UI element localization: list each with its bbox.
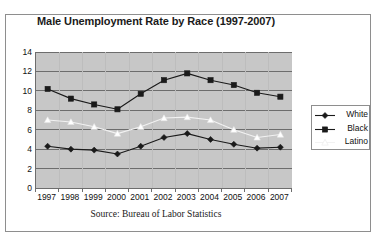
data-point-square	[231, 82, 236, 87]
data-point-square	[254, 90, 259, 95]
legend-item-black[interactable]: Black	[312, 122, 371, 135]
chart-title: Male Unemployment Rate by Race (1997-200…	[6, 15, 306, 27]
data-point-square	[115, 107, 120, 112]
data-point-diamond	[45, 143, 51, 149]
data-point-diamond	[68, 146, 74, 152]
y-axis-tick-label: 10	[6, 87, 32, 95]
y-axis-tick-label: 6	[6, 126, 32, 134]
data-point-diamond	[208, 136, 214, 142]
y-axis-labels: 02468101214	[3, 52, 32, 188]
data-point-square	[278, 94, 283, 99]
legend-marker-canvas	[314, 123, 336, 136]
chart-figure: Male Unemployment Rate by Race (1997-200…	[0, 0, 377, 237]
data-point-diamond	[114, 151, 120, 157]
data-point-square	[68, 96, 73, 101]
x-axis-tick-label: 2007	[263, 192, 295, 202]
legend-item-latino[interactable]: Latino	[312, 135, 371, 148]
legend-label: Black	[347, 123, 368, 134]
x-axis-tick-mark	[291, 188, 292, 192]
data-point-diamond	[138, 143, 144, 149]
data-point-diamond	[231, 141, 237, 147]
legend-marker-canvas	[314, 109, 336, 122]
y-axis-tick-label: 4	[6, 145, 32, 153]
y-axis-tick-label: 0	[6, 184, 32, 192]
x-axis-labels: 1997199819992000200120022003200420052006…	[35, 192, 291, 204]
data-point-diamond	[184, 131, 190, 137]
data-point-square	[45, 86, 50, 91]
data-point-square	[322, 126, 327, 131]
data-point-diamond	[254, 145, 260, 151]
source-note: Source: Bureau of Labor Statistics	[6, 209, 306, 219]
data-point-square	[208, 78, 213, 83]
data-point-square	[185, 71, 190, 76]
legend-marker-square-icon	[314, 122, 336, 135]
legend-marker-canvas	[314, 136, 336, 149]
data-point-diamond	[322, 113, 328, 119]
legend-label: White	[346, 109, 368, 120]
y-axis-tick-label: 12	[6, 67, 32, 75]
data-point-diamond	[161, 134, 167, 140]
y-axis-tick-label: 8	[6, 106, 32, 114]
chart-legend: WhiteBlackLatino	[311, 105, 370, 150]
legend-marker-diamond-icon	[314, 108, 336, 121]
legend-label: Latino	[345, 136, 368, 147]
data-point-square	[138, 91, 143, 96]
data-point-square	[92, 102, 97, 107]
data-point-square	[161, 78, 166, 83]
legend-item-white[interactable]: White	[312, 108, 371, 121]
y-axis-tick-label: 2	[6, 165, 32, 173]
plot-area	[35, 52, 292, 189]
legend-marker-triangle-icon	[314, 135, 336, 148]
y-axis-tick-label: 14	[6, 48, 32, 56]
plot-canvas	[36, 52, 292, 188]
data-point-diamond	[91, 147, 97, 153]
data-point-triangle	[277, 131, 283, 137]
